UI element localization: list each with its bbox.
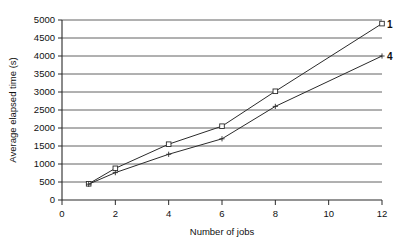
x-axis-title: Number of jobs bbox=[190, 226, 255, 237]
series-4: 4 bbox=[86, 51, 393, 187]
y-axis-title: Average elapsed time (s) bbox=[7, 57, 18, 162]
chart-canvas: 0500100015002000250030003500400045005000… bbox=[0, 0, 406, 248]
data-point-marker bbox=[273, 89, 278, 94]
x-tick-label: 6 bbox=[219, 208, 224, 219]
x-tick-label: 2 bbox=[113, 208, 118, 219]
y-tick-label: 0 bbox=[50, 194, 55, 205]
y-tick-label: 2000 bbox=[34, 122, 55, 133]
y-tick-label: 1000 bbox=[34, 158, 55, 169]
y-tick-label: 3000 bbox=[34, 86, 55, 97]
series-line-4 bbox=[89, 56, 382, 184]
series-endpoint-label-4: 4 bbox=[387, 51, 393, 62]
data-point-marker bbox=[220, 124, 225, 129]
y-tick-label: 500 bbox=[39, 176, 55, 187]
y-tick-label: 5000 bbox=[34, 14, 55, 25]
data-point-marker bbox=[380, 21, 385, 26]
gridlines bbox=[62, 20, 382, 182]
y-tick-label: 2500 bbox=[34, 104, 55, 115]
x-tick-label: 8 bbox=[273, 208, 278, 219]
x-tick-label: 0 bbox=[59, 208, 64, 219]
series-1: 1 bbox=[86, 19, 393, 187]
series-line-1 bbox=[89, 24, 382, 184]
x-axis-ticks: 024681012 bbox=[59, 200, 387, 219]
data-point-marker bbox=[113, 166, 118, 171]
chart-figure: 0500100015002000250030003500400045005000… bbox=[0, 0, 406, 248]
data-point-marker bbox=[166, 142, 171, 147]
x-tick-label: 10 bbox=[323, 208, 334, 219]
x-tick-label: 4 bbox=[166, 208, 171, 219]
y-axis-ticks: 0500100015002000250030003500400045005000 bbox=[34, 14, 62, 205]
series-endpoint-label-1: 1 bbox=[387, 19, 393, 30]
y-tick-label: 4500 bbox=[34, 32, 55, 43]
y-tick-label: 3500 bbox=[34, 68, 55, 79]
y-tick-label: 4000 bbox=[34, 50, 55, 61]
y-tick-label: 1500 bbox=[34, 140, 55, 151]
x-tick-label: 12 bbox=[377, 208, 388, 219]
